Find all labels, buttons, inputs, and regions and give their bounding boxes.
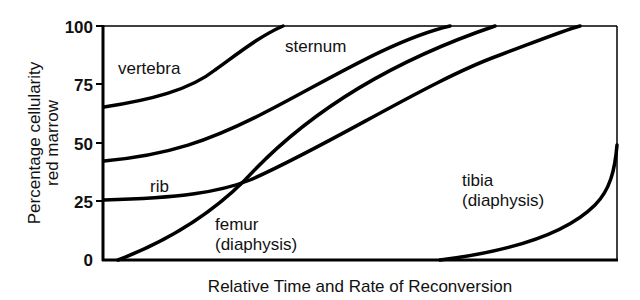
label-sternum: sternum <box>285 37 346 56</box>
y-axis-label-line2: red marrow <box>43 99 62 186</box>
label-tibia: tibia <box>462 171 494 190</box>
label-vertebra: vertebra <box>118 59 181 78</box>
y-ticks: 0 25 50 75 100 <box>65 18 103 270</box>
y-axis-label-line1: Percentage cellularity <box>25 61 44 224</box>
x-axis-title: Relative Time and Rate of Reconversion <box>208 277 512 296</box>
label-tibia-sub: (diaphysis) <box>462 191 544 210</box>
label-femur: femur <box>215 215 259 234</box>
y-tick-100: 100 <box>65 18 93 37</box>
curves <box>104 26 617 260</box>
y-tick-75: 75 <box>74 76 93 95</box>
curve-sternum <box>104 26 450 161</box>
y-tick-50: 50 <box>74 135 93 154</box>
y-tick-0: 0 <box>84 251 93 270</box>
chart: Percentage cellularity red marrow 0 25 5… <box>0 0 640 300</box>
label-rib: rib <box>150 177 169 196</box>
label-femur-sub: (diaphysis) <box>215 235 297 254</box>
y-tick-25: 25 <box>74 193 93 212</box>
y-axis-title: Percentage cellularity red marrow <box>25 61 62 224</box>
